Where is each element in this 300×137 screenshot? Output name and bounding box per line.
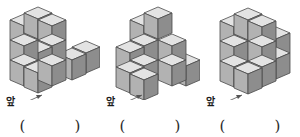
answer-blank-1[interactable]: ( ) (0, 117, 100, 135)
open-paren-3: ( (218, 117, 227, 135)
cube-stack-figure-3 (200, 0, 300, 100)
figure-group-1: 앞 ( ) (0, 0, 100, 137)
cube (234, 62, 262, 94)
open-paren-1: ( (18, 117, 27, 135)
open-paren-2: ( (118, 117, 127, 135)
worksheet-figures-sheet: 앞 ( ) (0, 0, 300, 137)
close-paren-1: ) (73, 117, 82, 135)
front-arrow-icon (122, 95, 142, 100)
front-arrow-icon (22, 95, 42, 100)
answer-blank-2[interactable]: ( ) (100, 117, 200, 135)
close-paren-3: ) (273, 117, 282, 135)
answer-space-1[interactable] (27, 126, 73, 127)
figure-group-3: 앞 ( ) (200, 0, 300, 137)
figure-group-2: 앞 ( ) (100, 0, 200, 137)
cube (144, 7, 172, 39)
cube-stack-figure-1 (0, 0, 100, 100)
front-label-3: 앞 (206, 97, 215, 107)
answer-space-3[interactable] (227, 126, 273, 127)
front-label-2: 앞 (106, 97, 115, 107)
answer-blank-3[interactable]: ( ) (200, 117, 300, 135)
cube (158, 54, 186, 86)
cube-stack-figure-2 (100, 0, 200, 100)
answer-space-2[interactable] (127, 126, 173, 127)
front-label-1: 앞 (6, 97, 15, 107)
close-paren-2: ) (173, 117, 182, 135)
cube (130, 68, 158, 100)
cube (38, 54, 66, 86)
front-arrow-icon (222, 95, 242, 100)
